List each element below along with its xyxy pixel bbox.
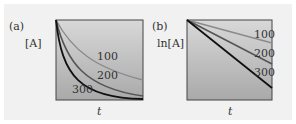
panel-a-curve-label-200: 200 (97, 70, 118, 81)
panel-a-curve-label-100: 100 (97, 51, 118, 62)
panel-b-tag: (b) (152, 21, 168, 32)
chart-svg (0, 0, 296, 124)
panel-b-curve-label-300: 300 (254, 67, 275, 78)
panel-a-ylabel: [A] (25, 38, 42, 49)
panel-a-tag: (a) (9, 21, 24, 32)
panel-a-curve-label-300: 300 (72, 84, 93, 95)
panel-b-curve-label-200: 200 (254, 48, 275, 59)
panel-a-xlabel: t (97, 106, 101, 117)
panel-b-ylabel: ln[A] (157, 38, 184, 49)
panel-b-xlabel: t (228, 106, 232, 117)
panel-b-curve-label-100: 100 (254, 29, 275, 40)
